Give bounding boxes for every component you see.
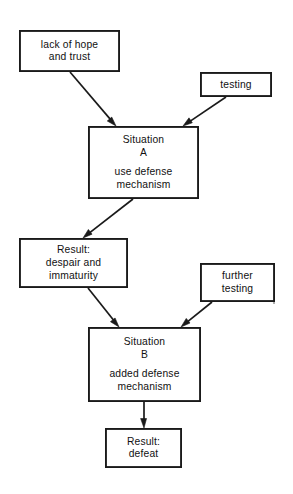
artifacts-layer [273, 302, 275, 304]
arrow-result-despair-to-situation-b [88, 288, 119, 327]
node-result-defeat-label: Result:defeat [127, 435, 160, 459]
node-further-testing: furthertesting [201, 264, 274, 301]
node-situation-a: SituationAuse defensemechanism [89, 127, 198, 198]
node-further-testing-label: furthertesting [222, 270, 254, 294]
node-lack-of-hope-and-trust-label: lack of hopeand trust [41, 38, 98, 62]
arrow-lack-of-hope-to-situation-a [70, 72, 116, 126]
node-result-despair-and-immaturity: Result:despair andimmaturity [20, 239, 127, 287]
arrow-testing-to-situation-a [183, 97, 226, 126]
node-situation-b: SituationBadded defensemechanism [89, 328, 200, 401]
nodes-layer: lack of hopeand trusttestingSituationAus… [20, 31, 274, 467]
arrow-further-testing-to-situation-b [181, 302, 212, 327]
arrow-further-testing-to-situation-b-arrowhead [181, 318, 190, 327]
arrow-situation-a-to-result-despair-line [89, 199, 133, 234]
arrow-situation-b-to-result-defeat-arrowhead [141, 419, 147, 429]
arrow-testing-to-situation-a-line [189, 97, 226, 122]
arrow-testing-to-situation-a-arrowhead [183, 118, 192, 126]
arrow-result-despair-to-situation-b-arrowhead [110, 318, 119, 327]
node-lack-of-hope-and-trust: lack of hopeand trust [20, 31, 119, 71]
arrow-lack-of-hope-to-situation-a-line [70, 72, 111, 121]
node-testing-label: testing [220, 78, 252, 89]
node-testing: testing [201, 73, 271, 96]
arrow-situation-a-to-result-despair [83, 199, 133, 238]
arrow-further-testing-to-situation-b-line [186, 302, 212, 323]
arrow-situation-b-to-result-defeat [141, 402, 147, 428]
arrow-situation-a-to-result-despair-arrowhead [83, 229, 92, 238]
flowchart-canvas: lack of hopeand trusttestingSituationAus… [0, 0, 293, 494]
node-result-defeat: Result:defeat [106, 429, 181, 467]
arrow-result-despair-to-situation-b-line [88, 288, 115, 322]
scan-speck [273, 302, 275, 304]
flowchart-diagram: lack of hopeand trusttestingSituationAus… [0, 0, 293, 494]
